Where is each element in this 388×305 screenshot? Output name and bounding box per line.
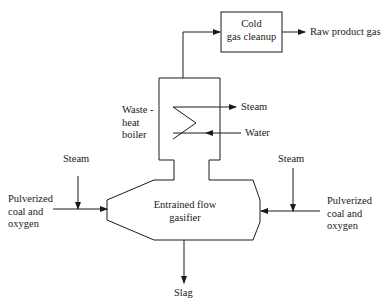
waste-heat-boiler-shell: [159, 78, 220, 180]
raw-product-gas-label: Raw product gas: [310, 26, 381, 39]
slag-label: Slag: [174, 287, 193, 300]
gas-pipe: [183, 32, 220, 78]
boiler-steam-label: Steam: [241, 101, 267, 114]
flow-diagram: [0, 0, 388, 305]
gasifier-label: Entrained flow gasifier: [140, 199, 230, 224]
left-feed-label: Pulverized coal and oxygen: [8, 193, 53, 231]
waste-heat-boiler-label: Waste - heat boiler: [122, 104, 154, 142]
right-steam-label: Steam: [278, 153, 304, 166]
left-steam-label: Steam: [63, 153, 89, 166]
boiler-water-label: Water: [245, 127, 270, 140]
cold-gas-cleanup-label: Cold gas cleanup: [221, 18, 282, 43]
heat-exchanger-coil: [173, 107, 196, 139]
right-feed-label: Pulverized coal and oxygen: [327, 195, 372, 233]
